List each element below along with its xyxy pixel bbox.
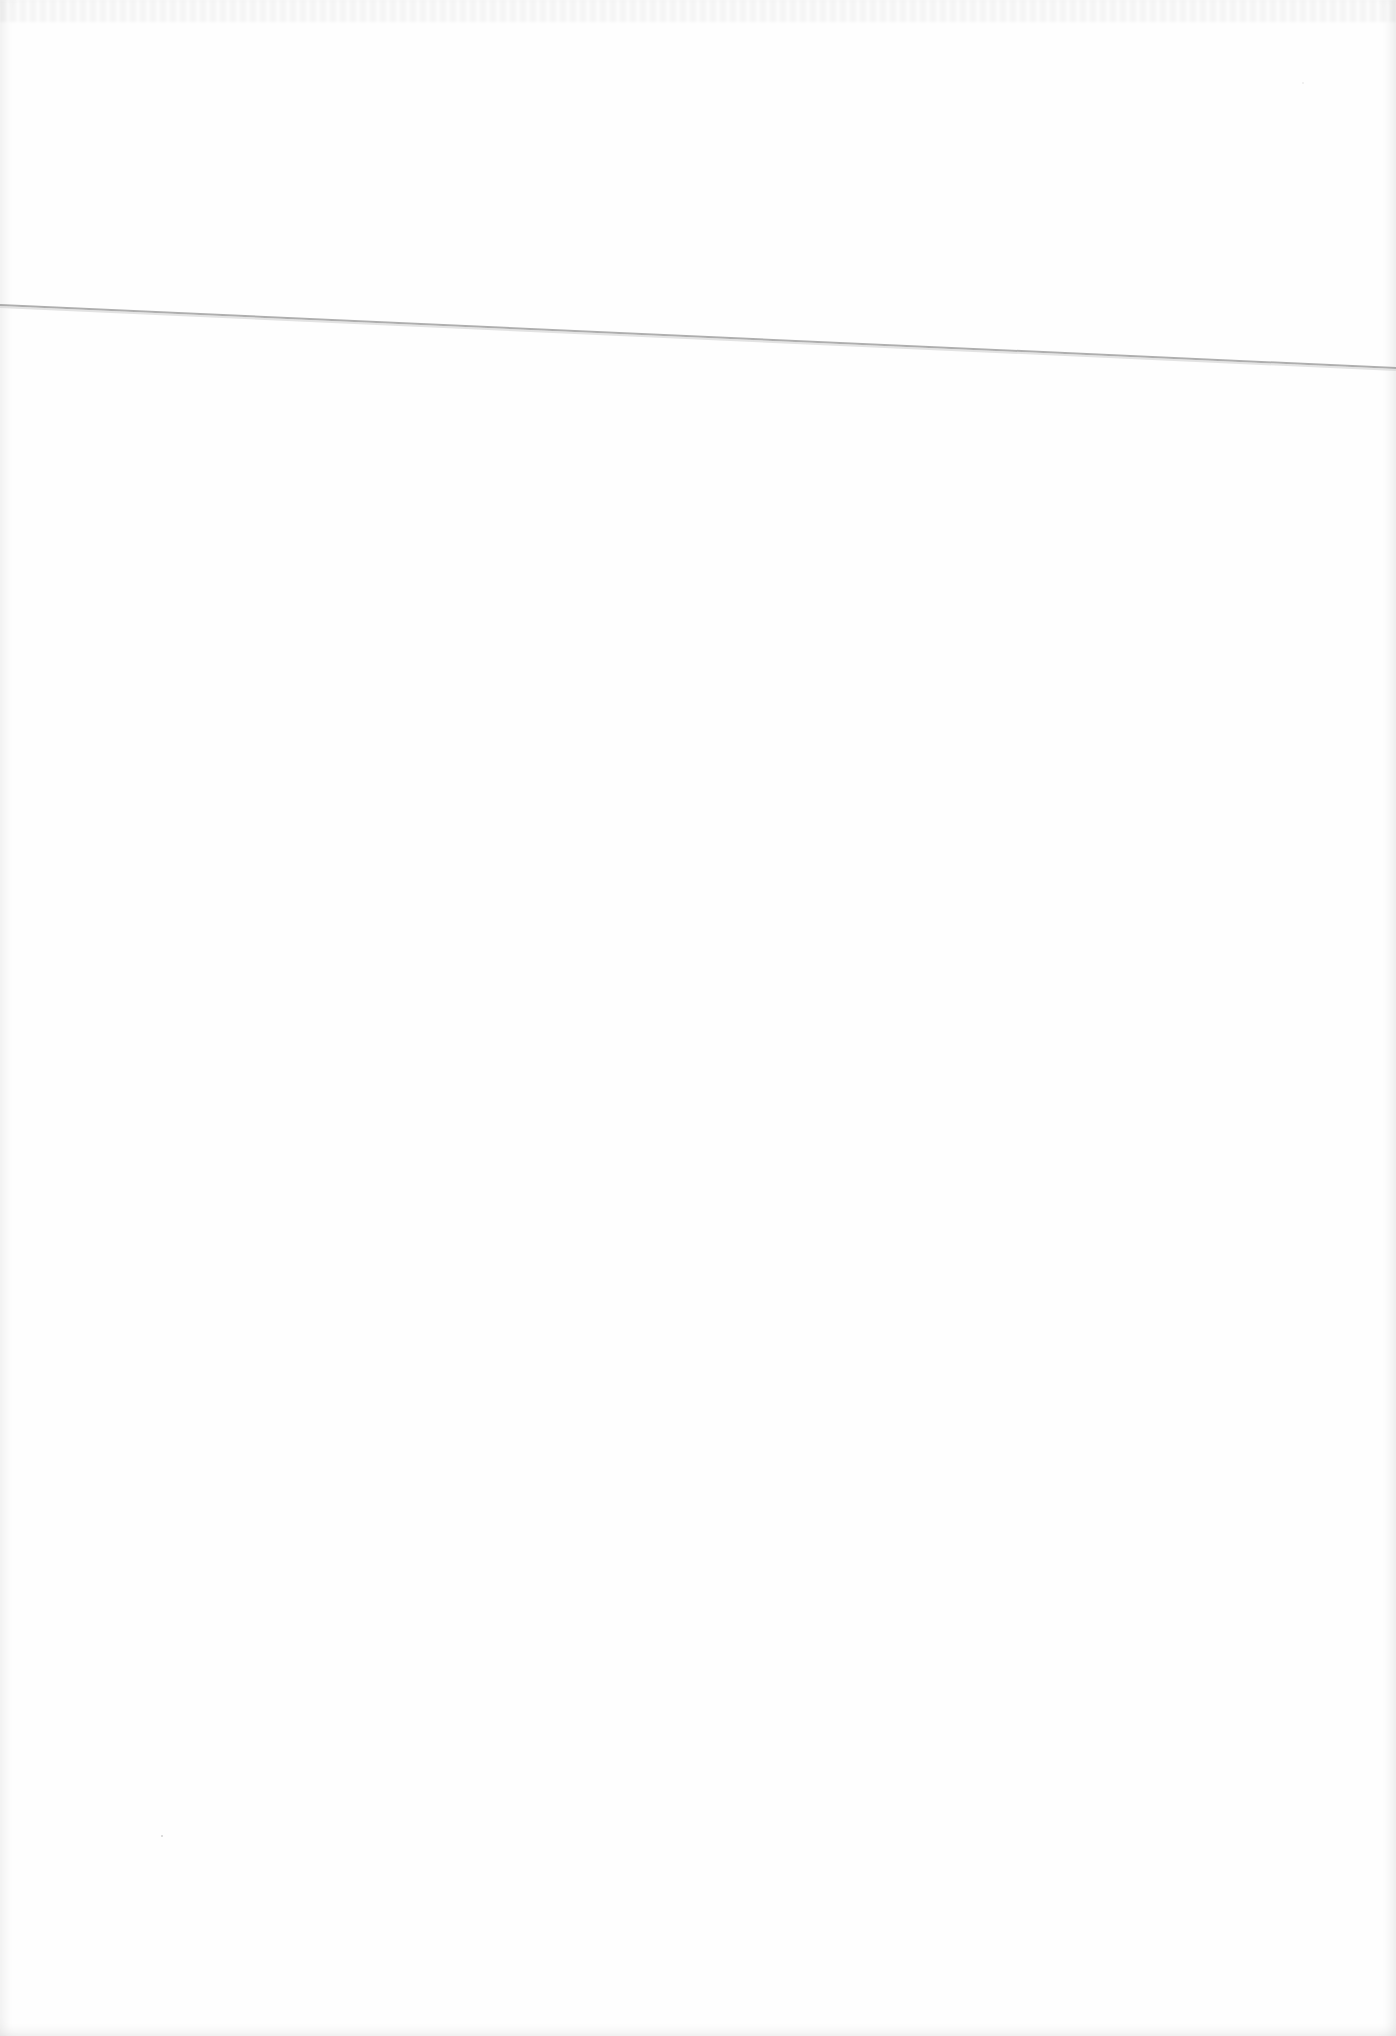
show-through-text-strip: [0, 0, 1396, 22]
paper-speck: [1302, 82, 1304, 84]
paper-speck: [161, 1835, 163, 1837]
blank-document-page: [0, 0, 1396, 2036]
paper-crease-line: [0, 0, 1396, 2036]
